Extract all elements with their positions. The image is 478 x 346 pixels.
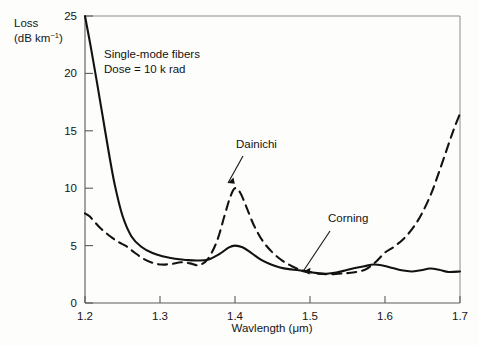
loss-vs-wavelength-chart: 0510152025 1.21.31.41.51.61.7 Loss (dB k… [0, 0, 478, 346]
y-axis-title-line2: (dB km−1) [14, 31, 63, 44]
y-axis-unit-prefix: (dB km [14, 32, 50, 44]
corning-label: Corning [328, 212, 368, 224]
x-axis-title: Wavlength (μm) [232, 322, 313, 334]
y-axis-unit-suffix: ) [59, 32, 63, 44]
y-axis-title-line1: Loss [14, 17, 39, 29]
y-tick-label: 5 [71, 240, 77, 252]
corning-leader-line [304, 231, 330, 270]
x-tick-label: 1.5 [302, 310, 318, 322]
dainichi-leader-line [228, 156, 243, 183]
x-tick-label: 1.7 [452, 310, 468, 322]
y-tick-label: 10 [64, 182, 77, 194]
figure-container: 0510152025 1.21.31.41.51.61.7 Loss (dB k… [0, 0, 478, 346]
x-tick-label: 1.6 [377, 310, 393, 322]
dainichi-label: Dainichi [236, 138, 277, 150]
y-axis-unit-exponent: −1 [50, 31, 59, 40]
y-axis-ticks: 0510152025 [64, 10, 93, 309]
x-tick-label: 1.4 [227, 310, 244, 322]
y-axis-title: Loss (dB km−1) [14, 17, 63, 44]
x-tick-label: 1.2 [77, 310, 93, 322]
corning-leader-arrowhead [303, 268, 311, 275]
y-tick-label: 15 [64, 125, 77, 137]
figure-note: Single-mode fibers Dose = 10 k rad [104, 48, 200, 75]
note-line-2: Dose = 10 k rad [104, 63, 186, 75]
y-tick-label: 20 [64, 67, 77, 79]
note-line-1: Single-mode fibers [104, 48, 200, 60]
y-tick-label: 0 [71, 297, 77, 309]
x-tick-label: 1.3 [152, 310, 168, 322]
corning-callout: Corning [303, 212, 368, 275]
x-axis-ticks: 1.21.31.41.51.61.7 [77, 296, 468, 322]
dainichi-callout: Dainichi [228, 138, 277, 184]
y-tick-label: 25 [64, 10, 77, 22]
